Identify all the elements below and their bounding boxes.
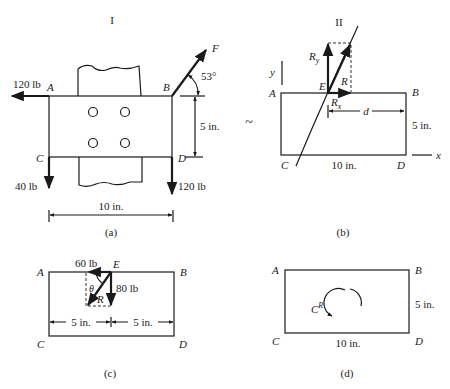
component-rx-label: Rx	[330, 96, 342, 111]
corner-label-c: C	[36, 152, 44, 164]
angle-arc	[96, 272, 102, 283]
figure-c: A B C D E 60 lb 80 lb R θ 5 in. 5 in. (c…	[36, 257, 187, 380]
angle-label: θ	[89, 283, 94, 294]
y-axis-label: y	[269, 66, 275, 78]
height-dim-label: 5 in.	[412, 119, 432, 131]
corner-label-d: D	[178, 338, 187, 350]
corner-label-b: B	[163, 81, 170, 93]
plate-b	[281, 93, 406, 155]
figure-d: A B C D CR 5 in. 10 in. (d)	[271, 264, 435, 380]
figure-a-title: I	[110, 14, 114, 26]
bolt-icon	[121, 139, 130, 148]
figure-b: II ~ Ry R Rx E y A B d 5 in. x C 10 in.	[245, 16, 441, 239]
corner-label-b: B	[180, 266, 187, 278]
corner-label-b: B	[415, 264, 422, 276]
figure-b-caption: (b)	[337, 226, 350, 239]
figure-c-caption: (c)	[104, 367, 117, 380]
force-label-f: F	[211, 42, 219, 54]
corner-label-a: A	[271, 264, 279, 276]
corner-label-c: C	[281, 159, 289, 171]
bolt-icon	[121, 108, 130, 117]
column-top	[78, 65, 141, 96]
resultant-label: R	[96, 293, 104, 305]
figure-a-caption: (a)	[105, 226, 118, 239]
corner-label-c: C	[272, 335, 280, 347]
corner-label-d: D	[177, 152, 186, 164]
horizontal-force-label: 60 lb	[75, 257, 98, 269]
distance-label: d	[363, 105, 369, 117]
corner-label-a: A	[268, 87, 276, 99]
point-e-label: E	[112, 258, 120, 270]
corner-label-a: A	[36, 266, 44, 278]
vertical-force-label: 80 lb	[116, 282, 139, 294]
width-dim-label: 10 in.	[335, 337, 360, 349]
couple-arc	[350, 289, 361, 306]
force-label-d: 120 lb	[178, 180, 206, 192]
height-dim-label: 5 in.	[415, 298, 435, 310]
bolt-icon	[89, 139, 98, 148]
force-label-c: 40 lb	[15, 180, 38, 192]
height-dim-label: 5 in.	[200, 120, 220, 132]
statics-diagram: I 120 lb A F B 53° 5 in. C D 40 lb	[0, 0, 450, 389]
column-bottom	[79, 157, 142, 186]
angle-arc	[188, 75, 198, 95]
plate-a	[49, 96, 172, 157]
width-dim-label: 10 in.	[98, 200, 123, 212]
figure-a: I 120 lb A F B 53° 5 in. C D 40 lb	[12, 14, 220, 239]
force-label-a: 120 lb	[13, 78, 41, 90]
couple-arrow-icon	[324, 288, 345, 316]
couple-label: CR	[311, 301, 323, 315]
equivalence-symbol: ~	[245, 115, 253, 130]
corner-label-a: A	[46, 81, 54, 93]
figure-d-caption: (d)	[341, 367, 354, 380]
corner-label-b: B	[412, 86, 419, 98]
corner-label-d: D	[396, 159, 405, 171]
component-ry-label: Ry	[308, 50, 320, 65]
width-dim-label: 10 in.	[331, 159, 356, 171]
angle-label: 53°	[201, 70, 216, 82]
point-e-label: E	[318, 80, 326, 92]
figure-b-title: II	[335, 16, 343, 28]
right-dim-label: 5 in.	[133, 316, 153, 328]
corner-label-c: C	[37, 338, 45, 350]
plate-d	[285, 270, 409, 333]
x-axis-label: x	[435, 149, 441, 161]
left-dim-label: 5 in.	[71, 316, 91, 328]
bolt-icon	[89, 108, 98, 117]
resultant-label: R	[340, 75, 348, 87]
corner-label-d: D	[414, 335, 423, 347]
